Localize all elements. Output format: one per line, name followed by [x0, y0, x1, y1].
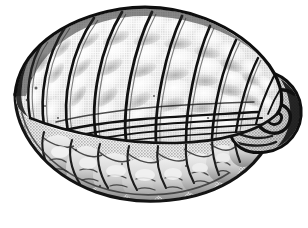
figure-root: Black and white halftone engraving of a …	[0, 0, 308, 228]
shell-dish-illustration	[0, 0, 308, 228]
